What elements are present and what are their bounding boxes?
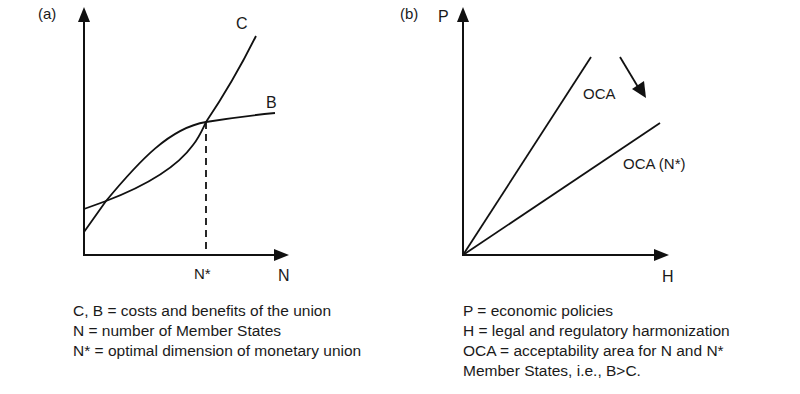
- legend-a: C, B = costs and benefits of the union N…: [73, 301, 361, 361]
- y-axis-label-p: P: [438, 8, 449, 25]
- line-oca: [463, 57, 591, 255]
- panel-b-tag: (b): [400, 5, 418, 22]
- legend-a-line: N = number of Member States: [73, 321, 361, 341]
- curve-b-label: B: [266, 94, 277, 111]
- y-axis-arrow-icon: [78, 7, 90, 22]
- legend-b-line: OCA = acceptability area for N and N*: [463, 341, 730, 361]
- panel-a: (a) C B N* N: [38, 5, 290, 284]
- curve-c-label: C: [236, 15, 248, 32]
- rotation-arrow-icon: [632, 81, 646, 98]
- line-oca-n-star: [463, 123, 660, 255]
- x-tick-n-star: N*: [194, 265, 211, 282]
- x-axis-label-n: N: [278, 267, 290, 284]
- x-axis-label-h: H: [662, 268, 674, 285]
- line-oca-label: OCA: [583, 85, 616, 102]
- legend-a-line: C, B = costs and benefits of the union: [73, 301, 361, 321]
- legend-b-line: H = legal and regulatory harmonization: [463, 321, 730, 341]
- legend-b: P = economic policies H = legal and regu…: [463, 301, 730, 381]
- x-axis-arrow-icon: [274, 249, 289, 261]
- legend-b-line: P = economic policies: [463, 301, 730, 321]
- line-oca-n-star-label: OCA (N*): [623, 155, 686, 172]
- panel-a-tag: (a): [38, 5, 56, 22]
- legend-b-line: Member States, i.e., B>C.: [463, 361, 730, 381]
- legend-a-line: N* = optimal dimension of monetary union: [73, 341, 361, 361]
- x-axis-arrow-icon: [654, 249, 669, 261]
- rotation-arrow-shaft: [620, 57, 638, 87]
- curve-c: [84, 36, 256, 232]
- panel-b: (b) P OCA OCA (N*) H: [400, 5, 686, 285]
- y-axis-arrow-icon: [457, 7, 469, 22]
